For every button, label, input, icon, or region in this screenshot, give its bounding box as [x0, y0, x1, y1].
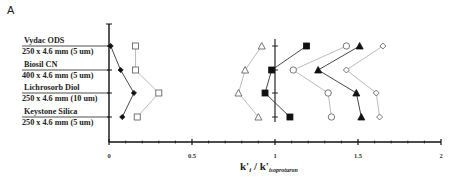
series-open-diamond — [343, 43, 386, 120]
triangle-marker — [315, 67, 322, 74]
category-labels: Vydac ODS250 x 4.6 mm (5 um)Biosil CN400… — [22, 36, 112, 127]
chart: Vydac ODS250 x 4.6 mm (5 um)Biosil CN400… — [0, 0, 463, 183]
data-series — [108, 43, 386, 121]
square-marker — [156, 90, 162, 96]
square-marker — [269, 67, 275, 73]
x-tick-label: 1.5 — [354, 152, 363, 159]
x-tick-label: 1 — [273, 152, 276, 159]
square-marker — [133, 67, 139, 73]
square-marker — [304, 43, 310, 49]
diamond-marker — [120, 114, 125, 119]
x-axis-label: k'i / k'isoproturon — [240, 160, 299, 174]
column-name: Vydac ODS — [24, 36, 65, 45]
circle-marker — [290, 67, 296, 73]
square-marker — [262, 90, 268, 96]
diamond-marker — [131, 90, 136, 95]
series-filled-diamond — [108, 43, 136, 119]
circle-marker — [328, 114, 334, 120]
column-dims: 250 x 4.6 mm (10 um) — [22, 94, 98, 103]
column-dims: 250 x 4.6 mm (5 um) — [22, 47, 94, 56]
square-marker — [134, 114, 140, 120]
series-filled-square — [262, 43, 310, 120]
triangle-marker — [235, 90, 242, 97]
diamond-marker — [377, 114, 383, 120]
column-dims: 250 x 4.6 mm (5 um) — [22, 118, 94, 127]
series-open-triangle — [235, 43, 265, 121]
triangle-marker — [242, 67, 249, 74]
triangle-marker — [353, 90, 360, 97]
column-name: Lichrosorb Diol — [24, 83, 80, 92]
triangle-marker — [356, 43, 363, 50]
x-tick-label: 2 — [439, 152, 442, 159]
column-dims: 400 x 4.6 mm (5 um) — [22, 71, 94, 80]
triangle-marker — [258, 43, 265, 50]
column-name: Biosil CN — [24, 60, 58, 69]
diamond-marker — [118, 67, 123, 72]
series-open-square — [133, 43, 162, 120]
series-filled-triangle — [315, 43, 365, 121]
circle-marker — [325, 90, 331, 96]
square-marker — [287, 114, 293, 120]
column-name: Keystone Silica — [24, 107, 77, 116]
x-tick-label: 0.5 — [188, 152, 197, 159]
circle-marker — [343, 43, 349, 49]
series-open-circle — [290, 43, 350, 120]
x-tick-label: 0 — [107, 152, 110, 159]
triangle-marker — [358, 114, 365, 121]
diamond-marker — [380, 43, 386, 49]
square-marker — [133, 43, 139, 49]
